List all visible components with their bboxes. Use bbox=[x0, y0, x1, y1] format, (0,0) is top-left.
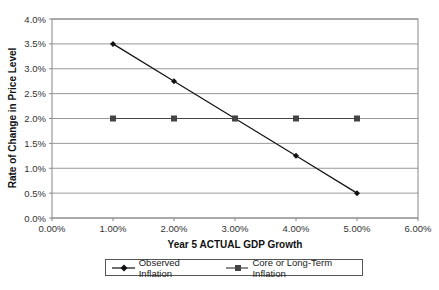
diamond-marker-icon bbox=[112, 263, 135, 273]
legend-item-observed: Observed Inflation bbox=[112, 257, 212, 279]
x-axis-title: Year 5 ACTUAL GDP Growth bbox=[168, 239, 303, 250]
y-axis-title: Rate of Change in Price Level bbox=[7, 47, 18, 188]
y-tick-label: 2.0% bbox=[24, 113, 46, 124]
y-axis-ticks: 0.0%0.5%1.0%1.5%2.0%2.5%3.0%3.5%4.0% bbox=[24, 14, 52, 224]
diamond-marker bbox=[171, 78, 177, 84]
square-marker bbox=[354, 116, 360, 122]
legend-label-observed: Observed Inflation bbox=[139, 257, 212, 279]
x-tick-label: 2.00% bbox=[161, 223, 188, 234]
x-tick-label: 0.00% bbox=[39, 223, 66, 234]
series-layer bbox=[110, 41, 360, 196]
x-axis-ticks: 0.00%1.00%2.00%3.00%4.00%5.00%6.00% bbox=[39, 218, 432, 234]
square-marker bbox=[232, 116, 238, 122]
square-marker bbox=[171, 116, 177, 122]
y-tick-label: 0.5% bbox=[24, 188, 46, 199]
legend-item-core: Core or Long-Term Inflation bbox=[226, 257, 362, 279]
diamond-marker bbox=[110, 41, 116, 47]
diamond-marker bbox=[293, 153, 299, 159]
square-marker-icon bbox=[226, 263, 249, 273]
x-tick-label: 3.00% bbox=[222, 223, 249, 234]
y-tick-label: 1.0% bbox=[24, 163, 46, 174]
x-tick-label: 1.00% bbox=[100, 223, 127, 234]
diamond-marker bbox=[354, 190, 360, 196]
y-tick-label: 3.5% bbox=[24, 38, 46, 49]
y-tick-label: 3.0% bbox=[24, 63, 46, 74]
x-tick-label: 5.00% bbox=[344, 223, 371, 234]
legend: Observed Inflation Core or Long-Term Inf… bbox=[105, 259, 363, 276]
y-tick-label: 0.0% bbox=[24, 213, 46, 224]
y-tick-label: 4.0% bbox=[24, 14, 46, 25]
square-marker bbox=[293, 116, 299, 122]
y-tick-label: 2.5% bbox=[24, 88, 46, 99]
square-marker bbox=[110, 116, 116, 122]
legend-label-core: Core or Long-Term Inflation bbox=[252, 257, 362, 279]
x-tick-label: 6.00% bbox=[405, 223, 432, 234]
line-chart: 0.0%0.5%1.0%1.5%2.0%2.5%3.0%3.5%4.0% 0.0… bbox=[0, 0, 439, 290]
y-tick-label: 1.5% bbox=[24, 138, 46, 149]
x-tick-label: 4.00% bbox=[283, 223, 310, 234]
